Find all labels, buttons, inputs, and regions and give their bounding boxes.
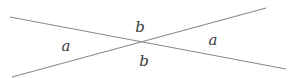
angle-label-right: a (209, 33, 218, 48)
intersecting-lines-diagram (0, 0, 298, 78)
angle-label-top: b (135, 20, 145, 35)
angle-label-left: a (62, 39, 71, 54)
angle-label-bottom: b (139, 54, 149, 69)
